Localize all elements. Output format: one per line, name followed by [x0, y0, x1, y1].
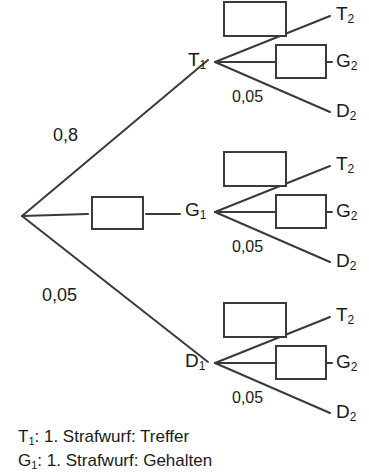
leaf-label-G1-G2: G2 — [336, 201, 357, 220]
probability-label-T1-D2: 0,05 — [232, 89, 263, 105]
edge-root-to-T1 — [22, 60, 208, 216]
probability-box-D1-G2[interactable] — [276, 346, 326, 379]
probability-label-G1-D2: 0,05 — [232, 239, 263, 255]
probability-box-T1-G2[interactable] — [276, 45, 326, 78]
edge-root-to-G1 — [22, 214, 88, 216]
node-label-T1: T1 — [188, 50, 206, 69]
leaf-label-G1-D2: D2 — [336, 251, 356, 270]
probability-label-D1-D2: 0,05 — [232, 390, 263, 406]
probability-box-root-G1[interactable] — [92, 197, 143, 229]
leaf-label-D1-G2: G2 — [336, 352, 357, 371]
node-label-G1: G1 — [185, 200, 206, 219]
leaf-label-G1-T2: T2 — [336, 154, 354, 173]
leaf-label-T1-G2: G2 — [336, 51, 357, 70]
leaf-label-D1-T2: T2 — [336, 305, 354, 324]
tree-lines-svg — [0, 0, 369, 475]
probability-box-G1-G2[interactable] — [276, 195, 326, 228]
probability-box-G1-T2[interactable] — [224, 152, 286, 186]
probability-label-root-D1: 0,05 — [42, 286, 77, 304]
probability-tree-diagram: T1 G1 D1 0,8 0,05 T2 G2 D2 0,05 T2 G2 D2… — [0, 0, 369, 475]
probability-box-T1-T2[interactable] — [224, 2, 286, 36]
leaf-label-T1-D2: D2 — [336, 101, 356, 120]
legend-line-G1: G1: 1. Strafwurf: Gehalten — [18, 452, 212, 469]
probability-label-root-T1: 0,8 — [53, 126, 78, 144]
node-label-D1: D1 — [185, 351, 205, 370]
legend-line-T1: T1: 1. Strafwurf: Treffer — [18, 428, 189, 445]
leaf-label-D1-D2: D2 — [336, 402, 356, 421]
probability-box-D1-T2[interactable] — [224, 303, 286, 337]
leaf-label-T1-T2: T2 — [336, 4, 354, 23]
